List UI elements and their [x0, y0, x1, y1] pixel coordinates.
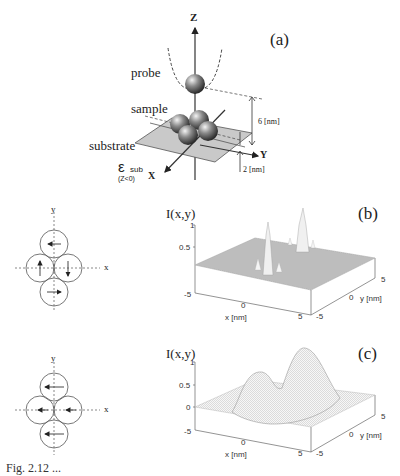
- plot-c-ylabel: y [nm]: [360, 431, 382, 440]
- plot-c-ytick: 0: [349, 430, 353, 439]
- plot-c-ytick: 5: [381, 412, 385, 421]
- panel-c-label: (c): [358, 344, 377, 364]
- plot-c-xlabel: x [nm]: [225, 450, 247, 459]
- plot-c-xtick: 0: [241, 438, 245, 447]
- plot-c-xtick: -5: [184, 427, 191, 436]
- plot-c-xtick: 5: [298, 449, 302, 458]
- plot-c-ztick: 1: [190, 358, 194, 367]
- plot-c-ytick: -5: [316, 449, 323, 458]
- plot-c-ztick: 0: [186, 403, 190, 412]
- figure-caption: Fig. 2.12 ...: [6, 461, 61, 476]
- plot-c-ztick: 0.5: [179, 381, 190, 390]
